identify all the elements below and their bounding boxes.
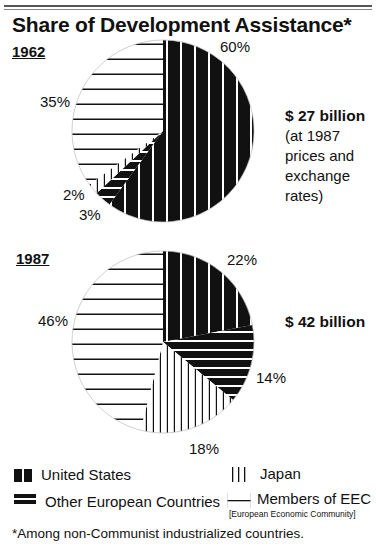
- label-1987-japan: 18%: [189, 440, 219, 457]
- label-1962-japan: 2%: [63, 186, 85, 203]
- note-line: prices and: [285, 146, 354, 166]
- label-1962-other-eu: 3%: [79, 206, 101, 223]
- legend-eec: Members of EEC: [257, 490, 371, 507]
- total-1962-note: (at 1987 prices and exchange rates): [285, 126, 354, 206]
- legend-swatch-eec-icon: [227, 493, 251, 508]
- label-1962-us: 60%: [220, 38, 250, 55]
- total-1987: $ 42 billion: [285, 313, 365, 331]
- note-line: exchange: [285, 166, 354, 186]
- note-line: rates): [285, 186, 354, 206]
- pie-1962: [72, 40, 254, 222]
- legend-japan: Japan: [260, 465, 301, 482]
- label-1962-eec: 35%: [40, 93, 70, 110]
- year-1987-label: 1987: [16, 250, 49, 267]
- footnote: *Among non-Communist industrialized coun…: [12, 526, 304, 541]
- legend-us: United States: [41, 466, 131, 483]
- total-1962: $ 27 billion: [285, 107, 365, 125]
- legend-swatch-other-eu-icon: [14, 494, 36, 504]
- label-1987-eec: 46%: [38, 312, 68, 329]
- year-1962-label: 1962: [12, 43, 45, 60]
- note-line: (at 1987: [285, 126, 354, 146]
- label-1987-us: 22%: [227, 251, 257, 268]
- legend-swatch-japan-icon: [232, 467, 245, 482]
- legend-swatch-us-icon: [14, 469, 32, 482]
- label-1987-other-eu: 14%: [256, 369, 286, 386]
- legend-other-eu: Other European Countries: [45, 493, 220, 510]
- pie-1987: [72, 251, 254, 433]
- legend-eec-subtitle: [European Economic Community]: [229, 509, 356, 519]
